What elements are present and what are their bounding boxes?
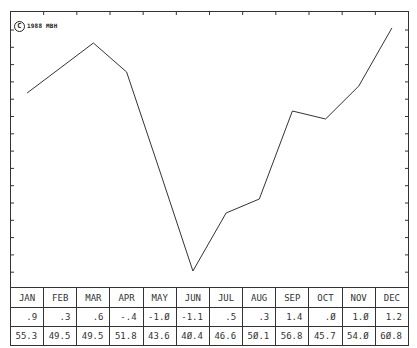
value-cell: 56.8 [276,327,309,346]
month-cell: APR [110,288,143,308]
value-cell: 43.6 [143,327,176,346]
copyright-icon: C [14,21,25,32]
month-cell: MAR [77,288,110,308]
value-cell: 49.5 [77,327,110,346]
value-cell: 6Ø.8 [375,327,408,346]
table-row-2: 55.3 49.5 49.5 51.8 43.6 4Ø.4 46.6 5Ø.1 … [11,327,409,346]
value-cell: 45.7 [309,327,342,346]
month-cell: JUL [209,288,242,308]
value-cell: .3 [243,308,276,327]
table-row-1: .9 .3 .6 -.4 -1.Ø -1.1 .5 .3 1.4 .Ø 1.Ø … [11,308,409,327]
chart-frame [11,12,409,288]
month-cell: JAN [11,288,44,308]
value-cell: 54.Ø [342,327,375,346]
value-cell: 1.4 [276,308,309,327]
value-cell: 4Ø.4 [176,327,209,346]
value-cell: .9 [11,308,44,327]
value-cell: .6 [77,308,110,327]
month-cell: FEB [44,288,77,308]
month-cell: NOV [342,288,375,308]
month-header-row: JAN FEB MAR APR MAY JUN JUL AUG SEP OCT … [11,288,409,308]
value-cell: 5Ø.1 [243,327,276,346]
value-cell: 55.3 [11,327,44,346]
month-cell: AUG [243,288,276,308]
value-cell: 49.5 [44,327,77,346]
value-cell: .3 [44,308,77,327]
month-cell: DEC [375,288,408,308]
value-cell: .Ø [309,308,342,327]
value-cell: -.4 [110,308,143,327]
value-cell: 51.8 [110,327,143,346]
data-table: JAN FEB MAR APR MAY JUN JUL AUG SEP OCT … [10,287,409,346]
axis-ticks [11,12,409,273]
value-cell: 1.2 [375,308,408,327]
value-cell: 1.Ø [342,308,375,327]
value-cell: -1.Ø [143,308,176,327]
value-cell: .5 [209,308,242,327]
copyright-label: C1988 MBH [14,21,58,32]
value-cell: 46.6 [209,327,242,346]
copyright-text: 1988 MBH [27,22,58,29]
month-cell: JUN [176,288,209,308]
month-cell: MAY [143,288,176,308]
data-line [27,28,392,271]
value-cell: -1.1 [176,308,209,327]
month-cell: SEP [276,288,309,308]
month-cell: OCT [309,288,342,308]
